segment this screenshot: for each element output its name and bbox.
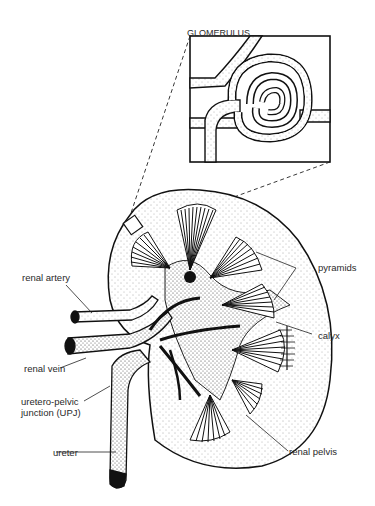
- label-renal-vein: renal vein: [24, 363, 65, 374]
- kidney-diagram: [0, 0, 375, 506]
- label-pyramids: pyramids: [318, 262, 357, 273]
- label-upj-line2: junction (UPJ): [21, 407, 81, 418]
- label-renal-artery: renal artery: [22, 272, 70, 283]
- label-ureter: ureter: [53, 447, 78, 458]
- label-calyx: calyx: [318, 330, 340, 341]
- glomerulus-title: GLOMERULUS: [187, 28, 250, 39]
- label-renal-pelvis: renal pelvis: [289, 446, 337, 457]
- label-upj-line1: uretero-pelvic: [21, 396, 79, 407]
- glomerulus-inset: [190, 36, 330, 162]
